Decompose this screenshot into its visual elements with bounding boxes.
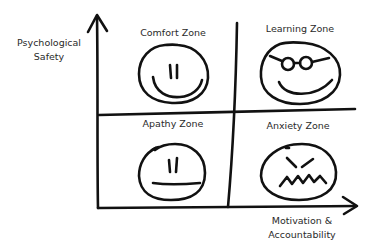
y-axis-label-line2: Safety (6, 50, 92, 64)
anxiety-zone-title: Anxiety Zone (258, 119, 338, 133)
comfort-zone-title: Comfort Zone (133, 26, 213, 40)
horizontal-divider (99, 109, 355, 115)
learning-zone-title: Learning Zone (260, 22, 340, 36)
y-axis-label-line1: Psychological (6, 36, 92, 50)
apathy-face-icon (139, 144, 205, 200)
learning-face-icon (261, 42, 340, 104)
x-axis-label-line1: Motivation & (252, 214, 352, 228)
x-axis-label: Motivation & Accountability (252, 214, 352, 242)
x-axis-label-line2: Accountability (252, 228, 352, 242)
vertical-divider (228, 23, 237, 207)
anxiety-face-icon (261, 144, 336, 200)
y-axis-label: Psychological Safety (6, 36, 92, 64)
comfort-face-icon (139, 45, 208, 104)
apathy-zone-title: Apathy Zone (133, 117, 213, 131)
